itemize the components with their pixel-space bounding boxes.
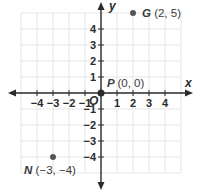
x-axis-label: x bbox=[184, 76, 193, 90]
x-axis-right-arrow-icon bbox=[185, 90, 193, 97]
y-tick-label: −3 bbox=[83, 135, 96, 147]
origin-label: O bbox=[89, 94, 99, 108]
x-tick-label: 3 bbox=[146, 97, 152, 109]
x-tick-label: 2 bbox=[130, 97, 136, 109]
y-tick-label: 2 bbox=[90, 55, 96, 67]
point-label-g: G (2, 5) bbox=[142, 7, 181, 19]
y-tick-label: −4 bbox=[83, 151, 96, 163]
x-tick-label: −3 bbox=[47, 97, 60, 109]
point-n bbox=[50, 154, 56, 160]
x-tick-label: −4 bbox=[31, 97, 44, 109]
point-g bbox=[130, 10, 136, 16]
coordinate-plane: −4−3−2−112344321−1−2−3−4 x y O G (2, 5)P… bbox=[0, 0, 207, 192]
x-tick-label: 4 bbox=[162, 97, 169, 109]
point-label-p: P (0, 0) bbox=[107, 77, 144, 89]
x-axis-left-arrow-icon bbox=[8, 90, 16, 97]
x-tick-label: −2 bbox=[63, 97, 76, 109]
y-tick-label: −2 bbox=[83, 119, 96, 131]
y-tick-label: 3 bbox=[90, 39, 96, 51]
y-axis-up-arrow-icon bbox=[98, 2, 105, 10]
y-tick-label: 1 bbox=[90, 71, 96, 83]
y-tick-label: 4 bbox=[90, 23, 97, 35]
point-p bbox=[98, 90, 105, 97]
x-tick-label: 1 bbox=[114, 97, 120, 109]
point-label-n: N (−3, −4) bbox=[24, 164, 76, 176]
y-axis-label: y bbox=[108, 0, 117, 13]
y-axis-down-arrow-icon bbox=[98, 182, 105, 190]
points: G (2, 5)P (0, 0)N (−3, −4) bbox=[24, 7, 181, 176]
